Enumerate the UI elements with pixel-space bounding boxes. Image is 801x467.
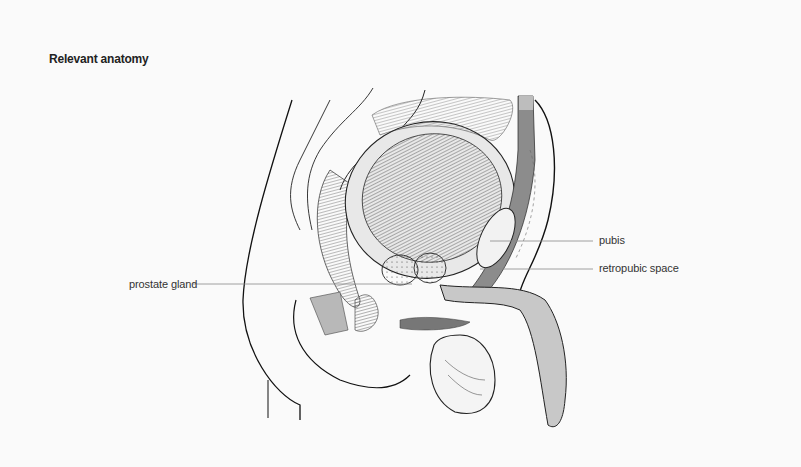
anatomy-illustration: [0, 0, 801, 467]
label-pubis: pubis: [599, 234, 625, 246]
label-retropubic-space: retropubic space: [599, 262, 679, 274]
label-prostate-gland: prostate gland: [129, 278, 197, 290]
figure-panel: Relevant anatomy: [0, 0, 801, 467]
